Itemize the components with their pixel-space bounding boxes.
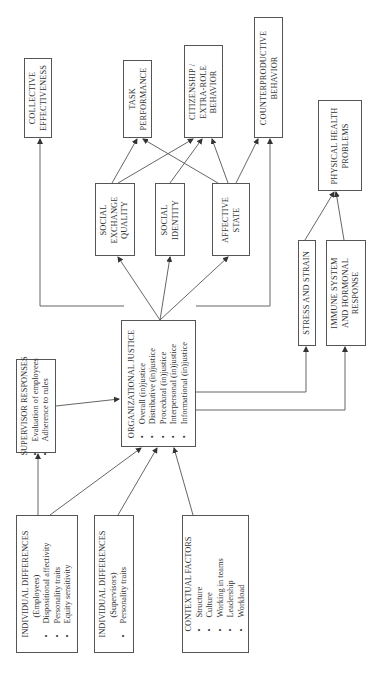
citizenship-box: CITIZENSHIP / EXTRA-ROLE BEHAVIOR xyxy=(184,45,223,138)
organizational-justice-box: ORGANIZATIONAL JUSTICE Overall (in)justi… xyxy=(121,320,196,447)
indiv-diff-supervisors-item: Personality traits xyxy=(119,531,130,638)
social-exchange-box: SOCIAL EXCHANGE QUALITY xyxy=(95,183,135,256)
social-exchange-line2: EXCHANGE xyxy=(110,196,121,243)
task-performance-line2: PERFORMANCE xyxy=(138,68,149,131)
physical-health-box: PHYSICAL HEALTH PROBLEMS xyxy=(318,100,362,191)
indiv-diff-employees-title: INDIVIDUAL DIFFERENCES xyxy=(21,531,32,638)
counterproductive-line2: BEHAVIOR xyxy=(269,30,280,124)
immune-system-box: IMMUNE SYSTEM AND HORMONAL RESPONSE xyxy=(326,240,366,346)
indiv-diff-employees-item: Personality traits xyxy=(52,531,63,638)
social-exchange-line1: SOCIAL xyxy=(99,196,110,243)
indiv-diff-employees-box: INDIVIDUAL DIFFERENCES (Employees) Dispo… xyxy=(16,515,78,653)
supervisor-responses-item: Adherence to rules xyxy=(41,356,52,455)
citizenship-line1: CITIZENSHIP / xyxy=(188,63,199,119)
supervisor-responses-box: SUPERVISOR RESPONSES Evaluation of emplo… xyxy=(16,359,56,453)
contextual-factors-item: Workload xyxy=(237,537,248,632)
social-identity-line2: IDENTITY xyxy=(170,200,181,240)
stress-strain-box: STRESS AND STRAIN xyxy=(298,240,316,346)
physical-health-line1: PHYSICAL HEALTH xyxy=(330,107,341,184)
social-exchange-line3: QUALITY xyxy=(120,196,131,243)
indiv-diff-supervisors-subtitle: (Supervisors) xyxy=(109,531,120,638)
social-identity-box: SOCIAL IDENTITY xyxy=(155,183,185,256)
contextual-factors-title: CONTEXTUAL FACTORS xyxy=(184,537,195,632)
org-justice-item: Informational (in)justice xyxy=(180,329,191,437)
indiv-diff-supervisors-title: INDIVIDUAL DIFFERENCES xyxy=(98,531,109,638)
contextual-factors-item: Culture xyxy=(205,537,216,632)
collective-effectiveness-box: COLLECTIVE EFFECTIVENESS xyxy=(24,58,52,138)
contextual-factors-item: Structure xyxy=(194,537,205,632)
supervisor-responses-item: Evaluation of employees xyxy=(31,356,42,455)
social-identity-line1: SOCIAL xyxy=(160,200,171,240)
citizenship-line2: EXTRA-ROLE xyxy=(198,63,209,119)
org-justice-item: Overall (in)justice xyxy=(137,329,148,437)
collective-effectiveness-line2: EFFECTIVENESS xyxy=(38,65,49,131)
immune-system-line2: AND HORMONAL xyxy=(341,257,352,328)
org-justice-item: Distributive (in)justice xyxy=(148,329,159,437)
contextual-factors-item: Working in teams xyxy=(216,537,227,632)
collective-effectiveness-line1: COLLECTIVE xyxy=(28,65,39,131)
task-performance-box: TASK PERFORMANCE xyxy=(123,60,152,138)
indiv-diff-employees-subtitle: (Employees) xyxy=(31,531,42,638)
org-justice-title: ORGANIZATIONAL JUSTICE xyxy=(127,329,138,437)
affective-state-box: AFFECTIVE STATE xyxy=(212,183,250,256)
physical-health-line2: PROBLEMS xyxy=(340,107,351,184)
contextual-factors-item: Leadership xyxy=(226,537,237,632)
counterproductive-box: COUNTERPRODUCTIVE BEHAVIOR xyxy=(254,17,283,138)
task-performance-line1: TASK xyxy=(127,68,138,131)
stress-strain-line1: STRESS AND STRAIN xyxy=(302,251,313,335)
immune-system-line1: IMMUNE SYSTEM xyxy=(330,257,341,328)
indiv-diff-employees-item: Equity sensitivity xyxy=(63,531,74,638)
supervisor-responses-title: SUPERVISOR RESPONSES xyxy=(20,356,31,455)
indiv-diff-supervisors-box: INDIVIDUAL DIFFERENCES (Supervisors) Per… xyxy=(94,515,134,653)
contextual-factors-box: CONTEXTUAL FACTORS Structure Culture Wor… xyxy=(182,515,249,653)
immune-system-line3: RESPONSE xyxy=(351,257,362,328)
org-justice-item: Procedural (in)justice xyxy=(159,329,170,437)
affective-state-line2: STATE xyxy=(231,196,242,242)
org-justice-item: Interpersonal (in)justice xyxy=(169,329,180,437)
indiv-diff-employees-item: Dispositional affectivity xyxy=(42,531,53,638)
counterproductive-line1: COUNTERPRODUCTIVE xyxy=(258,30,269,124)
citizenship-line3: BEHAVIOR xyxy=(209,63,220,119)
affective-state-line1: AFFECTIVE xyxy=(221,196,232,242)
